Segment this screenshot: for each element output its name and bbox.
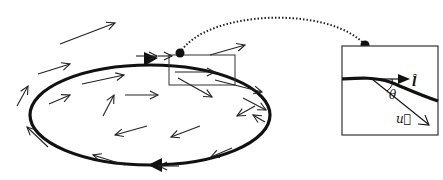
diagram-canvas: l̂ u⃗ θ	[0, 0, 443, 180]
field-arrow	[115, 126, 147, 137]
field-arrow	[171, 126, 200, 138]
field-arrow	[49, 95, 70, 104]
tangent-label: l̂	[412, 74, 417, 89]
field-arrow	[178, 78, 212, 97]
closed-loop-path	[30, 65, 270, 165]
diagram-svg: l̂ u⃗ θ	[0, 0, 443, 180]
field-arrow	[253, 115, 265, 122]
connector-dot-start	[176, 49, 185, 58]
field-arrow	[82, 73, 124, 84]
vector-field-arrows	[17, 22, 266, 170]
field-label: u⃗	[396, 112, 411, 126]
field-arrow-head-icon	[253, 115, 262, 122]
dotted-connector	[180, 18, 365, 53]
field-arrow	[125, 91, 158, 99]
field-arrow	[210, 43, 245, 55]
field-arrow	[60, 22, 115, 44]
field-arrow	[158, 52, 172, 60]
field-arrow	[17, 86, 28, 106]
angle-label: θ	[389, 88, 397, 102]
field-arrow	[38, 63, 70, 74]
field-arrow	[103, 95, 114, 116]
